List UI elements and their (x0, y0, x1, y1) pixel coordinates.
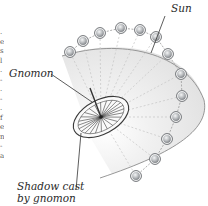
edge-text-fragment: e (0, 123, 4, 133)
edge-text-fragment: e (0, 38, 4, 48)
sun-marker (116, 23, 127, 34)
sun-body (96, 29, 104, 37)
sundial-illustration (0, 0, 208, 206)
edge-text-fragment: . (0, 66, 4, 76)
sun-marker (135, 25, 146, 36)
sun-body (151, 155, 159, 163)
edge-text-fragment: - (0, 142, 4, 152)
edge-text-fragment: n (0, 133, 4, 143)
sun-marker (162, 134, 173, 145)
sun-marker (163, 49, 174, 60)
sun-body (79, 37, 87, 45)
edge-text-fragment: - (0, 95, 4, 105)
sun-marker (95, 28, 106, 39)
edge-text-fragment: - (0, 76, 4, 86)
sun-body (178, 92, 186, 100)
sun-marker (150, 154, 161, 165)
sun-marker (176, 69, 187, 80)
sun-body (177, 70, 185, 78)
sun-body (132, 172, 140, 180)
edge-text-fragment: s (0, 47, 4, 57)
edge-text-fragment: a (0, 152, 4, 162)
sundial-diagram: Sun Gnomon Shadow cast by gnomon .esl.-.… (0, 0, 208, 206)
sun-body (172, 113, 180, 121)
sun-body (163, 135, 171, 143)
shadow-label-line1: Shadow cast (17, 180, 84, 192)
sun-body (117, 24, 125, 32)
edge-text-fragment: . (0, 85, 4, 95)
sun-body (66, 48, 74, 56)
sun-marker (131, 171, 142, 182)
edge-text-fragment: l (0, 57, 4, 67)
dial-center (99, 115, 103, 119)
shadow-label-line2: by gnomon (17, 192, 76, 204)
sun-marker (78, 36, 89, 47)
cropped-body-text: .esl.-.-.fen-a (0, 28, 4, 161)
edge-text-fragment: f (0, 114, 4, 124)
sun-body (164, 50, 172, 58)
edge-text-fragment: . (0, 28, 4, 38)
sun-label: Sun (171, 2, 192, 14)
edge-text-fragment: . (0, 104, 4, 114)
gnomon-label: Gnomon (9, 67, 54, 79)
sun-body (136, 26, 144, 34)
sun-marker (177, 91, 188, 102)
sun-marker (65, 47, 76, 58)
sun-marker (171, 112, 182, 123)
